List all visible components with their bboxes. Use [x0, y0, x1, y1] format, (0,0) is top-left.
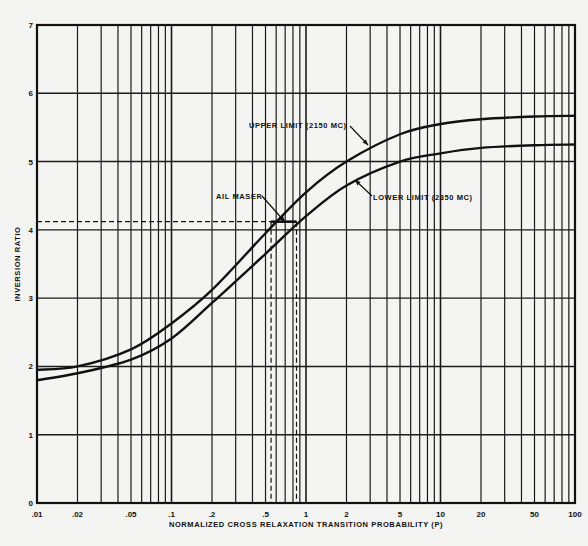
x-tick-label: 1 — [304, 510, 309, 519]
chart: .01.02.05.1.2.512510205010001234567 NORM… — [0, 0, 588, 546]
y-tick-label: 0 — [29, 499, 34, 508]
x-axis-label: NORMALIZED CROSS RELAXATION TRANSITION P… — [169, 520, 443, 529]
y-tick-label: 7 — [29, 21, 34, 30]
x-tick-label: .2 — [209, 510, 216, 519]
upper-limit-label: UPPER LIMIT (2150 MC) — [249, 121, 347, 130]
ail-maser-label: AIL MASER — [216, 192, 263, 201]
x-tick-label: .1 — [168, 510, 175, 519]
reference-lines — [37, 222, 297, 503]
x-tick-label: .02 — [72, 510, 84, 519]
x-tick-label: 10 — [436, 510, 445, 519]
grid — [37, 25, 575, 503]
y-tick-label: 1 — [29, 431, 34, 440]
y-tick-label: 3 — [29, 294, 34, 303]
y-tick-label: 6 — [29, 89, 34, 98]
x-tick-label: 20 — [477, 510, 486, 519]
x-tick-label: .5 — [262, 510, 269, 519]
x-tick-label: 5 — [398, 510, 403, 519]
y-tick-label: 4 — [29, 226, 34, 235]
x-tick-label: .05 — [125, 510, 137, 519]
x-tick-label: 100 — [568, 510, 582, 519]
x-tick-label: 50 — [530, 510, 539, 519]
x-tick-label: .01 — [31, 510, 43, 519]
y-tick-label: 2 — [29, 362, 34, 371]
x-tick-label: 2 — [344, 510, 349, 519]
y-tick-label: 5 — [29, 158, 34, 167]
lower-limit-label: LOWER LIMIT (2350 MC) — [373, 193, 473, 202]
y-axis-label: INVERSION RATIO — [13, 226, 22, 301]
